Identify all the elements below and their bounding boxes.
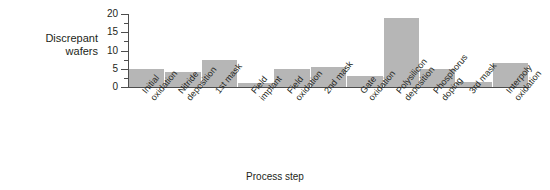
y-tick-major	[121, 51, 128, 52]
y-tick-major	[121, 69, 128, 70]
y-axis-title-line-2: wafers	[6, 45, 98, 58]
y-tick-minor	[124, 41, 128, 42]
y-tick-label: 0	[112, 82, 118, 92]
y-tick-minor	[124, 60, 128, 61]
y-tick-minor	[124, 23, 128, 24]
y-axis-title: Discrepant wafers	[6, 32, 98, 58]
x-axis-title: Process step	[0, 171, 550, 182]
y-tick-major	[121, 14, 128, 15]
x-axis-category-labels: InitialoxidationNitridedeposition1st mas…	[129, 89, 539, 161]
y-tick-label: 10	[107, 46, 118, 56]
y-axis-tick-labels: 05101520	[96, 0, 118, 190]
y-tick-label: 20	[107, 9, 118, 19]
y-tick-major	[121, 32, 128, 33]
y-tick-label: 5	[112, 64, 118, 74]
y-tick-label: 15	[107, 27, 118, 37]
y-tick-minor	[124, 78, 128, 79]
y-axis-title-line-1: Discrepant	[6, 32, 98, 45]
y-tick-major	[121, 87, 128, 88]
bar-chart-figure: Discrepant wafers 05101520 Initialoxidat…	[0, 0, 550, 190]
